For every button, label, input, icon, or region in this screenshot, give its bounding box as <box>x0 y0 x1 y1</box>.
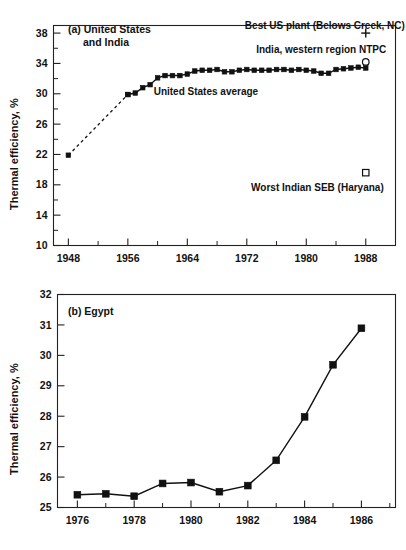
data-point <box>131 493 138 500</box>
panel-a-dashed-segment <box>68 95 127 156</box>
panel-b-egypt-markers <box>74 325 365 500</box>
data-point <box>244 482 251 489</box>
data-point <box>282 67 287 72</box>
y-tick-label: 26 <box>40 471 52 483</box>
data-point <box>126 92 131 97</box>
annotation-open-square: Worst Indian SEB (Haryana) <box>251 182 384 193</box>
panel-b-plot-frame <box>58 295 396 508</box>
y-tick-label: 31 <box>40 319 52 331</box>
y-tick-label: 34 <box>36 57 48 69</box>
y-tick-label: 30 <box>36 87 48 99</box>
data-point <box>289 68 294 73</box>
annotation-inline: United States average <box>154 86 259 97</box>
data-point <box>319 71 324 76</box>
data-point <box>334 67 339 72</box>
x-tick-label: 1972 <box>235 252 259 264</box>
data-point <box>148 82 153 87</box>
data-point <box>192 69 197 74</box>
data-point <box>237 68 242 73</box>
data-point <box>297 67 302 72</box>
data-point <box>178 73 183 78</box>
panel-a-svg: Thermal efficiency, % (a) United States … <box>0 0 406 280</box>
data-point <box>273 457 280 464</box>
panel-a-title: (a) United States <box>68 23 151 35</box>
panel-b-x-axis: 197619781980198219841986 <box>66 501 390 526</box>
data-point <box>341 66 346 71</box>
y-tick-label: 22 <box>36 148 48 160</box>
data-point <box>155 76 160 81</box>
data-point <box>216 488 223 495</box>
data-point <box>222 69 227 74</box>
data-point <box>356 65 361 70</box>
y-tick-label: 30 <box>40 349 52 361</box>
x-tick-label: 1986 <box>350 514 374 526</box>
x-tick-label: 1980 <box>179 514 203 526</box>
y-tick-label: 14 <box>36 209 48 221</box>
data-point <box>252 68 257 73</box>
data-point <box>140 85 145 90</box>
data-point <box>363 66 368 71</box>
data-point <box>74 491 81 498</box>
panel-a-y-axis: 1014182226303438 <box>36 27 61 251</box>
panel-a-y-axis-title: Thermal efficiency, % <box>8 98 20 210</box>
panel-a-annotations: Best US plant (Belows Creek, NC)India, w… <box>154 20 405 193</box>
x-tick-label: 1980 <box>295 252 319 264</box>
y-tick-label: 29 <box>40 379 52 391</box>
data-point <box>311 69 316 74</box>
data-point <box>304 68 309 73</box>
data-point <box>133 91 138 96</box>
data-point <box>358 325 365 332</box>
panel-b-data <box>74 325 365 500</box>
data-point <box>207 68 212 73</box>
data-point <box>163 73 168 78</box>
data-point <box>185 72 190 77</box>
marker-open-circle-india-ntpc <box>362 59 369 66</box>
data-point <box>245 67 250 72</box>
marker-open-square-worst-seb <box>363 169 369 175</box>
y-tick-label: 32 <box>40 288 52 300</box>
x-tick-label: 1948 <box>57 252 81 264</box>
panel-a-title-line2: and India <box>83 36 129 48</box>
data-point <box>66 153 71 158</box>
figure-thermal-efficiency: Thermal efficiency, % (a) United States … <box>0 0 406 550</box>
data-point <box>330 361 337 368</box>
panel-a-x-axis: 194819561964197219801988 <box>57 239 378 264</box>
chart-panel-b: Thermal efficiency, % (b) Egypt 25262728… <box>0 280 406 550</box>
y-tick-label: 27 <box>40 440 52 452</box>
annotation-open-circle: India, western region NTPC <box>256 44 386 55</box>
chart-panel-a: Thermal efficiency, % (a) United States … <box>0 0 406 280</box>
x-tick-label: 1988 <box>354 252 378 264</box>
panel-b-y-axis-title: Thermal efficiency, % <box>8 363 20 475</box>
x-tick-label: 1984 <box>293 514 317 526</box>
data-point <box>326 71 331 76</box>
data-point <box>259 68 264 73</box>
data-point <box>159 480 166 487</box>
y-tick-label: 38 <box>36 27 48 39</box>
data-point <box>230 69 235 74</box>
x-tick-label: 1964 <box>176 252 200 264</box>
data-point <box>274 67 279 72</box>
y-tick-label: 25 <box>40 501 52 513</box>
annotation-plus: Best US plant (Belows Creek, NC) <box>245 20 405 31</box>
y-tick-label: 18 <box>36 178 48 190</box>
panel-b-title: (b) Egypt <box>68 305 114 317</box>
panel-b-svg: Thermal efficiency, % (b) Egypt 25262728… <box>0 280 406 550</box>
data-point <box>170 73 175 78</box>
y-tick-label: 10 <box>36 239 48 251</box>
x-tick-label: 1976 <box>66 514 90 526</box>
data-point <box>200 68 205 73</box>
data-point <box>188 479 195 486</box>
x-tick-label: 1956 <box>116 252 140 264</box>
panel-b-y-axis: 2526272829303132 <box>40 288 65 513</box>
y-tick-label: 28 <box>40 410 52 422</box>
panel-a-plot-frame <box>54 26 396 246</box>
data-point <box>301 413 308 420</box>
panel-b-egypt-line <box>77 328 361 496</box>
data-point <box>349 66 354 71</box>
x-tick-label: 1982 <box>236 514 260 526</box>
x-tick-label: 1978 <box>123 514 147 526</box>
y-tick-label: 26 <box>36 118 48 130</box>
data-point <box>267 68 272 73</box>
data-point <box>102 490 109 497</box>
data-point <box>215 67 220 72</box>
